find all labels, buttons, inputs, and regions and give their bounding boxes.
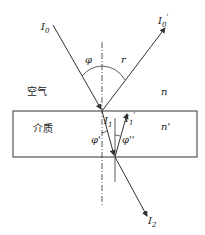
label-r: r: [121, 54, 127, 65]
angle-arc-internal: [115, 135, 120, 136]
label-I1: I1: [103, 115, 112, 129]
label-I0: I0: [40, 21, 50, 35]
label-phi: φ: [85, 54, 92, 65]
label-phi-double-prime: φ'': [122, 134, 135, 145]
angle-arc-incidence: [82, 66, 102, 76]
angle-arc-reflection: [102, 66, 125, 80]
incident-ray: [53, 25, 101, 109]
label-I1-prime: I1': [124, 111, 135, 127]
label-n: n: [161, 86, 167, 97]
label-I0-prime: I0': [157, 13, 168, 29]
label-medium: 介质: [33, 123, 53, 134]
label-phi-prime: φ': [91, 134, 101, 145]
label-I2: I2: [147, 215, 157, 229]
label-air: 空气: [27, 85, 47, 97]
reflected-ray: [102, 28, 165, 111]
optics-diagram: I0 I0' φ r 空气 n 介质 n' I1 I1' φ' φ'' I2: [0, 0, 205, 235]
angle-arc-refraction: [102, 131, 107, 133]
label-n-prime: n': [161, 121, 170, 132]
transmitted-ray: [115, 157, 147, 216]
